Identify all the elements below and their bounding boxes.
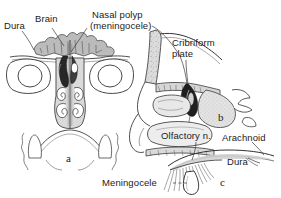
label-nasal-polyp-line2: (meningocele) [90,21,152,32]
label-nasal-polyp-line1: Nasal polyp [92,10,143,21]
panel-c-detail [164,150,274,194]
label-dura-top: Dura [4,21,25,32]
label-cribriform-line1: Cribriform [172,38,215,49]
brain-mass [34,33,114,56]
panel-caption-a: a [66,152,71,164]
label-arachnoid: Arachnoid [222,133,266,144]
panel-caption-c: c [220,176,225,188]
label-brain: Brain [35,14,58,25]
nasal-wing-left [22,133,42,170]
nasal-wing-right [99,133,119,170]
label-meningocele: Meningocele [102,178,157,189]
leader-dura-top [22,31,34,50]
label-cribriform-line2: plate [172,49,193,60]
left-orbit [7,59,51,93]
label-dura-detail: Dura [227,157,248,168]
anatomical-figure: Dura Brain Nasal polyp (meningocele) Cri… [0,0,281,198]
label-olfactory-nerve: Olfactory n. [161,131,211,142]
right-orbit [90,59,134,93]
panel-caption-b: b [218,111,224,123]
leader-arachnoid [252,142,264,155]
panel-a-coronal-section [7,33,134,170]
